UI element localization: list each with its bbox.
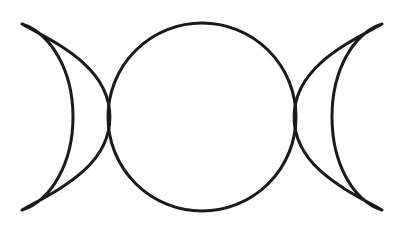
waxing-crescent-left (22, 24, 110, 210)
waning-crescent-right (294, 24, 382, 210)
full-moon-circle (108, 23, 296, 211)
image-canvas: Triple Moon symbol: waxing crescent, ful… (0, 0, 405, 234)
triple-moon-symbol: Triple Moon symbol: waxing crescent, ful… (0, 0, 405, 234)
